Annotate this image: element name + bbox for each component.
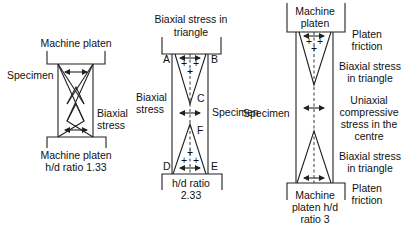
top-platen-label: Machine platen	[40, 37, 111, 49]
platen-friction-label-2: friction	[352, 40, 383, 52]
corner-b-label: B	[211, 53, 218, 65]
specimen-label: Specimen	[243, 107, 290, 119]
plus-icon: +	[193, 154, 199, 166]
diagram-hd-1-33: Machine platen Specimen Biaxial stress M…	[7, 37, 128, 173]
corner-e-label: E	[211, 160, 218, 172]
uniaxial-stress-label-3: stress in the	[341, 118, 398, 130]
biaxial-stress-triangle-lower-label-2: in triangle	[347, 162, 393, 174]
biaxial-stress-triangle-label: Biaxial stress	[339, 60, 401, 72]
lower-cone-b	[67, 64, 93, 137]
bottom-platen-label: Machine	[295, 189, 335, 201]
platen-friction-label: Platen	[352, 28, 382, 40]
triangle-stress-label: Biaxial stress in	[155, 13, 228, 25]
plus-icon: +	[193, 57, 199, 69]
upper-triangle	[299, 32, 331, 85]
hd-ratio-label: h/d ratio 1.33	[45, 161, 106, 173]
triangle-stress-label-2: triangle	[174, 26, 209, 38]
diagram-hd-3: Machine platen + + + Specimen Platen fri…	[243, 3, 401, 225]
stress-diagram: Machine platen Specimen Biaxial stress M…	[0, 0, 406, 233]
lower-cone-tip	[67, 104, 84, 121]
biaxial-stress-label: Biaxial	[97, 107, 128, 119]
corner-a-label: A	[163, 53, 170, 65]
plus-icon: +	[317, 35, 323, 47]
plus-icon: +	[187, 65, 193, 77]
biaxial-stress-triangle-label-2: in triangle	[347, 72, 393, 84]
corner-c-label: C	[197, 92, 205, 104]
hd-ratio-label: h/d ratio	[172, 177, 210, 189]
uniaxial-stress-label: Uniaxial	[350, 94, 387, 106]
lower-cone	[58, 64, 84, 137]
hd-ratio-label: ratio 3	[300, 213, 329, 225]
biaxial-stress-triangle-lower-label: Biaxial stress	[339, 150, 401, 162]
platen-friction-lower-label-2: friction	[352, 194, 383, 206]
bottom-platen-label-2: platen h/d	[292, 201, 338, 213]
top-platen-label-2: platen	[301, 17, 330, 29]
hd-ratio-value: 2.33	[181, 189, 202, 201]
plus-icon: +	[181, 154, 187, 166]
specimen-label: Specimen	[7, 69, 54, 81]
platen-friction-lower-label: Platen	[352, 182, 382, 194]
top-platen-label: Machine	[295, 5, 335, 17]
diagram-hd-2-33: Biaxial stress in triangle + + + + + + A…	[136, 13, 259, 201]
corner-d-label: D	[163, 160, 171, 172]
biaxial-stress-label-2: stress	[136, 103, 164, 115]
top-platen	[162, 37, 221, 54]
uniaxial-stress-label-2: compressive	[340, 106, 399, 118]
plus-icon: +	[311, 42, 317, 54]
biaxial-stress-label-2: stress	[97, 119, 125, 131]
corner-f-label: F	[197, 124, 203, 136]
biaxial-stress-label: Biaxial	[136, 91, 167, 103]
bottom-platen-label: Machine platen	[40, 149, 111, 161]
top-platen	[47, 51, 105, 64]
uniaxial-stress-label-4: centre	[354, 130, 383, 142]
bottom-platen	[47, 137, 106, 148]
